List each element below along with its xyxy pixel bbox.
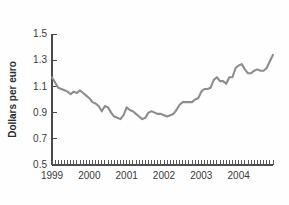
x-tick-label: 2004 bbox=[228, 170, 251, 181]
chart-figure: 0.50.70.91.11.31.51999200020012002200320… bbox=[0, 0, 289, 205]
data-series-line bbox=[52, 55, 273, 119]
x-tick-label: 2001 bbox=[116, 170, 139, 181]
x-tick-label: 2003 bbox=[190, 170, 213, 181]
y-tick-label: 0.5 bbox=[33, 159, 47, 170]
y-tick-label: 1.3 bbox=[33, 54, 47, 65]
y-tick-label: 0.9 bbox=[33, 107, 47, 118]
x-tick-label: 1999 bbox=[41, 170, 64, 181]
y-tick-label: 0.7 bbox=[33, 133, 47, 144]
y-tick-label: 1.5 bbox=[33, 28, 47, 39]
line-chart: 0.50.70.91.11.31.51999200020012002200320… bbox=[0, 0, 289, 205]
x-tick-label: 2000 bbox=[78, 170, 101, 181]
y-tick-label: 1.1 bbox=[33, 81, 47, 92]
y-axis-title: Dollars per euro bbox=[7, 61, 18, 138]
x-tick-label: 2002 bbox=[153, 170, 176, 181]
